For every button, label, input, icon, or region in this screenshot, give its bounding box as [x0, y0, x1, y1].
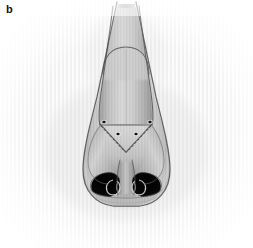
- top-fade: [0, 0, 253, 16]
- suture-point-right-outer: [147, 120, 153, 124]
- suture-point-right-inner: [133, 132, 139, 136]
- nasal-base-illustration: [0, 0, 253, 248]
- figure-panel: b: [0, 0, 253, 248]
- suture-point-left-inner: [115, 132, 121, 136]
- panel-label: b: [6, 4, 13, 15]
- suture-point-left-outer: [101, 120, 107, 124]
